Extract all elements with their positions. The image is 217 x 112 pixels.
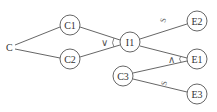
edge-i1-e2: [140, 24, 187, 39]
node-e1: E1: [187, 49, 207, 69]
edge-label-i1-e2: S: [158, 17, 168, 24]
causal-diagram: ∨ ∧ S S C C1 C2 I1 E2 E1 C3 E3: [0, 0, 217, 112]
node-e1-label: E1: [191, 54, 202, 65]
or-symbol: ∨: [101, 37, 108, 48]
edge-i1-e1: [140, 46, 187, 58]
node-c3-label: C3: [117, 71, 129, 82]
node-e3-label: E3: [191, 89, 202, 100]
edge-c-c2: [15, 49, 60, 58]
edge-label-c3-e3: S: [159, 80, 169, 87]
node-c1-label: C1: [64, 20, 76, 31]
node-i1: I1: [120, 32, 140, 52]
node-i1-label: I1: [126, 37, 134, 48]
node-c-label: C: [6, 42, 13, 53]
and-symbol: ∧: [168, 54, 175, 65]
node-c1: C1: [60, 15, 80, 35]
node-e2: E2: [187, 11, 207, 31]
node-e3: E3: [187, 84, 207, 104]
or-junction-arc: [113, 38, 115, 47]
node-c3: C3: [113, 66, 133, 86]
node-e2-label: E2: [191, 16, 202, 27]
node-c2: C2: [60, 49, 80, 69]
node-c2-label: C2: [64, 54, 76, 65]
edge-c3-e1: [133, 61, 187, 73]
edge-c-c1: [15, 27, 60, 45]
and-junction-arc: [180, 56, 182, 62]
